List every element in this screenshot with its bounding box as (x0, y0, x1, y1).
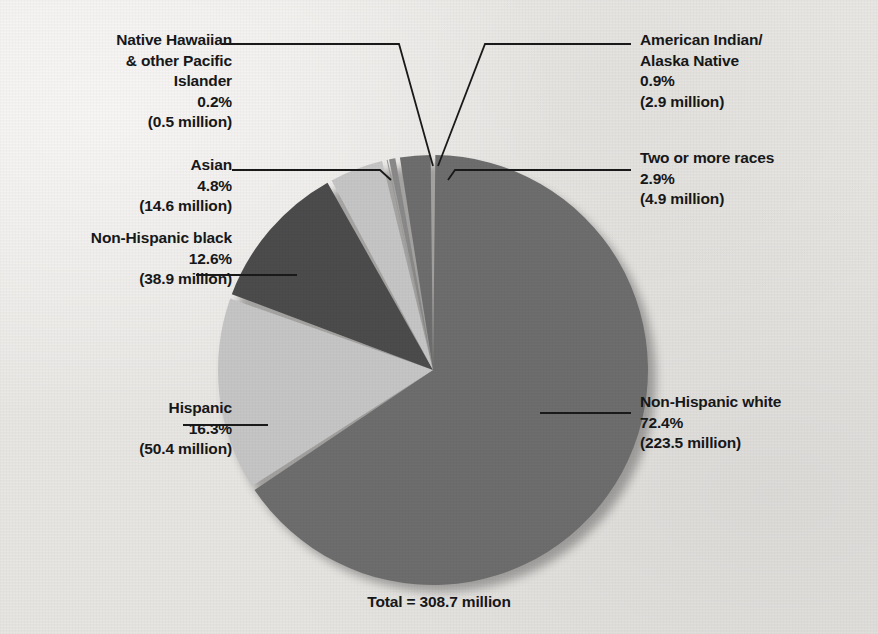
callout-count: (14.6 million) (18, 196, 232, 217)
callout-native-hawaiian-pacific-islander: Native Hawaiian & other Pacific Islander… (18, 30, 232, 133)
callout-percent: 72.4% (640, 413, 872, 434)
callout-two-or-more-races: Two or more races 2.9% (4.9 million) (640, 148, 870, 210)
callout-name: Asian (18, 155, 232, 176)
callout-name-line2: Alaska Native (640, 51, 870, 72)
callout-count: (38.9 million) (8, 269, 232, 290)
callout-percent: 0.2% (18, 92, 232, 113)
callout-hispanic: Hispanic 16.3% (50.4 million) (8, 398, 232, 460)
callout-percent: 16.3% (8, 419, 232, 440)
callout-non-hispanic-black: Non-Hispanic black 12.6% (38.9 million) (8, 228, 232, 290)
callout-percent: 0.9% (640, 71, 870, 92)
callout-count: (0.5 million) (18, 112, 232, 133)
callout-asian: Asian 4.8% (14.6 million) (18, 155, 232, 217)
leader-line-nhpi (222, 44, 433, 166)
callout-name: Non-Hispanic black (8, 228, 232, 249)
callout-count: (223.5 million) (640, 433, 872, 454)
callout-name-line1: Native Hawaiian (18, 30, 232, 51)
callout-percent: 12.6% (8, 249, 232, 270)
pie-chart: Native Hawaiian & other Pacific Islander… (0, 0, 878, 634)
callout-name: Hispanic (8, 398, 232, 419)
callout-name-line1: American Indian/ (640, 30, 870, 51)
callout-count: (50.4 million) (8, 439, 232, 460)
callout-percent: 4.8% (18, 176, 232, 197)
callout-name-line3: Islander (18, 71, 232, 92)
leader-line-aian (438, 44, 631, 166)
callout-name: Non-Hispanic white (640, 392, 872, 413)
callout-non-hispanic-white: Non-Hispanic white 72.4% (223.5 million) (640, 392, 872, 454)
callout-american-indian-alaska-native: American Indian/ Alaska Native 0.9% (2.9… (640, 30, 870, 112)
callout-name: Two or more races (640, 148, 870, 169)
chart-total-caption: Total = 308.7 million (0, 593, 878, 611)
callout-name-line2: & other Pacific (18, 51, 232, 72)
callout-count: (2.9 million) (640, 92, 870, 113)
callout-percent: 2.9% (640, 169, 870, 190)
callout-count: (4.9 million) (640, 189, 870, 210)
